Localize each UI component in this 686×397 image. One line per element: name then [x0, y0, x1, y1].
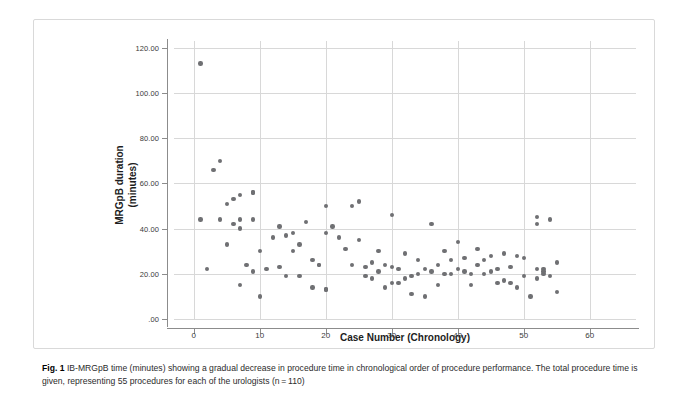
- data-point: [396, 281, 400, 285]
- data-point: [535, 267, 539, 271]
- y-tick-80: [162, 138, 167, 139]
- data-point: [284, 233, 288, 237]
- data-point: [449, 258, 453, 262]
- data-point: [383, 263, 387, 267]
- figure-root: MRGpB duration (minutes) Case Number (Ch…: [0, 0, 686, 397]
- x-tick-label-0: 0: [192, 331, 196, 340]
- x-tick-label-10: 10: [255, 331, 264, 340]
- data-point: [442, 249, 446, 253]
- data-point: [535, 215, 539, 219]
- data-point: [337, 235, 341, 239]
- data-point: [396, 267, 400, 271]
- y-tick-label-80: 80.00: [140, 134, 159, 143]
- x-axis-line: [167, 328, 639, 329]
- data-point: [251, 217, 255, 221]
- y-tick-0: [162, 319, 167, 320]
- x-axis-title: Case Number (Chronology): [174, 332, 636, 343]
- data-point: [469, 283, 473, 287]
- data-point: [324, 231, 328, 235]
- data-point: [244, 263, 248, 267]
- data-point: [383, 285, 387, 289]
- gridline-y-0: [174, 319, 636, 320]
- gridline-x-40: [458, 41, 459, 319]
- data-point: [238, 226, 242, 230]
- gridline-y-40: [174, 229, 636, 230]
- data-point: [528, 294, 532, 298]
- gridline-y-120: [174, 48, 636, 49]
- gridline-y-60: [174, 183, 636, 184]
- data-point: [541, 272, 545, 276]
- data-point: [508, 281, 512, 285]
- data-point: [277, 224, 281, 228]
- data-point: [390, 213, 394, 217]
- data-point: [495, 281, 499, 285]
- data-point: [390, 265, 394, 269]
- data-point: [258, 249, 262, 253]
- data-point: [409, 292, 413, 296]
- data-point: [515, 285, 519, 289]
- data-point: [330, 224, 334, 228]
- data-point: [482, 272, 486, 276]
- y-axis-title: MRGpB duration (minutes): [114, 145, 139, 224]
- data-point: [502, 251, 506, 255]
- data-point: [403, 276, 407, 280]
- x-tick-label-30: 30: [387, 331, 396, 340]
- data-point: [403, 251, 407, 255]
- data-point: [489, 254, 493, 258]
- data-point: [225, 242, 229, 246]
- data-point: [462, 256, 466, 260]
- y-axis-title-line1: MRGpB duration: [114, 145, 125, 224]
- data-point: [548, 274, 552, 278]
- data-point: [251, 190, 255, 194]
- gridline-x-0: [194, 41, 195, 319]
- data-point: [211, 168, 215, 172]
- data-point: [423, 267, 427, 271]
- data-point: [205, 267, 209, 271]
- gridline-y-100: [174, 93, 636, 94]
- scatter-chart: MRGpB duration (minutes) Case Number (Ch…: [34, 20, 656, 350]
- data-point: [502, 278, 506, 282]
- data-point: [475, 263, 479, 267]
- data-point: [291, 249, 295, 253]
- data-point: [376, 269, 380, 273]
- y-tick-label-120: 120.00: [135, 43, 159, 52]
- y-tick-label-100: 100.00: [135, 88, 159, 97]
- data-point: [535, 222, 539, 226]
- y-axis-line: [167, 39, 168, 327]
- data-point: [548, 217, 552, 221]
- data-point: [198, 61, 202, 65]
- gridline-x-10: [260, 41, 261, 319]
- y-tick-60: [162, 183, 167, 184]
- data-point: [218, 159, 222, 163]
- data-point: [370, 260, 374, 264]
- gridline-y-20: [174, 274, 636, 275]
- data-point: [469, 272, 473, 276]
- data-point: [508, 265, 512, 269]
- gridline-x-20: [326, 41, 327, 319]
- data-point: [310, 258, 314, 262]
- data-point: [238, 217, 242, 221]
- x-tick-label-60: 60: [585, 331, 594, 340]
- data-point: [522, 274, 526, 278]
- y-tick-20: [162, 274, 167, 275]
- data-point: [555, 290, 559, 294]
- figure-caption-text: IB-MRGpB time (minutes) showing a gradua…: [42, 363, 638, 386]
- data-point: [555, 260, 559, 264]
- data-point: [456, 240, 460, 244]
- data-point: [495, 267, 499, 271]
- data-point: [423, 294, 427, 298]
- x-tick-label-50: 50: [519, 331, 528, 340]
- data-point: [390, 281, 394, 285]
- data-point: [436, 263, 440, 267]
- gridline-y-80: [174, 138, 636, 139]
- y-tick-120: [162, 48, 167, 49]
- data-point: [317, 263, 321, 267]
- y-tick-label-60: 60.00: [140, 179, 159, 188]
- data-point: [449, 272, 453, 276]
- data-point: [310, 285, 314, 289]
- data-point: [482, 258, 486, 262]
- data-point: [304, 220, 308, 224]
- y-axis-title-line2: (minutes): [126, 163, 137, 208]
- data-point: [297, 242, 301, 246]
- data-point: [350, 263, 354, 267]
